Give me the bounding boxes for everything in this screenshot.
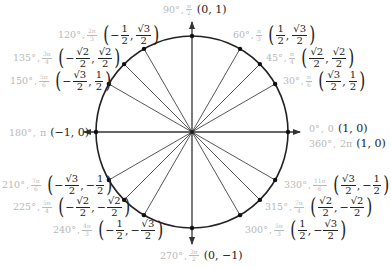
label-150: 150°, 5π6 (−√32,12) <box>10 70 113 92</box>
den: 2 <box>374 186 380 197</box>
num: √3 <box>65 174 80 186</box>
den: 2 <box>350 82 356 93</box>
degrees: 30° <box>283 76 300 86</box>
label-300: 300°, 5π3 (12,−√32) <box>245 219 348 241</box>
x: 1 <box>342 123 349 134</box>
label-60: 60°, π3 (12,√32) <box>233 24 317 46</box>
coord-180: (−1, 0) <box>50 127 89 138</box>
y-frac: √32 <box>323 219 338 241</box>
y-sign: − <box>86 180 95 191</box>
coord-240: (−12,−√32) <box>97 219 165 241</box>
coord-210: (−√32,−12) <box>46 174 114 196</box>
den: 2 <box>77 82 83 93</box>
den: 4 <box>45 208 49 214</box>
radian-fraction: 7π4 <box>294 200 304 214</box>
point-60 <box>238 47 242 51</box>
x-frac: √22 <box>309 47 324 69</box>
den: 2 <box>187 10 191 16</box>
den: 2 <box>141 36 147 47</box>
angle-90: 90°, π2 <box>163 3 193 17</box>
num: √2 <box>332 47 347 59</box>
num: √2 <box>318 196 333 208</box>
label-270: 270°, 3π2 (0, −1) <box>160 249 243 263</box>
num: √3 <box>323 219 338 231</box>
y-sign: − <box>313 225 322 236</box>
num: 1 <box>349 70 357 82</box>
radius-line-135 <box>124 64 192 132</box>
degrees: 315° <box>265 202 288 212</box>
radian-fraction: 3π4 <box>42 51 52 65</box>
x-sign: − <box>62 76 71 87</box>
y-frac: 12 <box>373 174 381 196</box>
den: 2 <box>145 231 151 242</box>
den: 2 <box>277 36 283 47</box>
y-frac: 12 <box>96 174 104 196</box>
label-330: 330°, 11π6 (√32,−12) <box>284 174 391 196</box>
num: √3 <box>292 24 307 36</box>
label-210: 210°, 7π6 (−√32,−12) <box>2 174 114 196</box>
point-315 <box>258 198 262 202</box>
num: √2 <box>309 47 324 59</box>
num: √2 <box>107 196 122 208</box>
angle-210: 210°, 7π6 <box>2 178 42 192</box>
y-frac: √32 <box>141 219 156 241</box>
den: 2 <box>345 186 351 197</box>
point-90 <box>190 34 194 38</box>
degrees: 330° <box>284 180 307 190</box>
radians: 2π <box>340 139 352 149</box>
den: 6 <box>42 82 46 88</box>
den: 4 <box>297 208 301 214</box>
den: 2 <box>80 59 86 70</box>
label-240: 240°, 4π3 (−12,−√32) <box>53 219 165 241</box>
angle-30: 30°, π6 <box>283 74 313 88</box>
label-0: 0°, 0 (1, 0) <box>309 123 367 134</box>
label-360: 360°, 2π (1, 0) <box>309 138 386 149</box>
x: 0 <box>208 250 215 261</box>
x-frac: 12 <box>276 24 284 46</box>
den: 2 <box>354 208 360 219</box>
radius-line-30 <box>192 84 275 132</box>
y-sign: − <box>130 225 139 236</box>
x-frac: √32 <box>341 174 356 196</box>
num: √3 <box>73 70 88 82</box>
angle-180: 180°, π <box>9 128 46 138</box>
den: 6 <box>307 82 311 88</box>
radian-fraction: π4 <box>289 51 295 65</box>
x-frac: √22 <box>76 196 91 218</box>
radius-line-60 <box>192 49 240 132</box>
y-frac: 12 <box>95 70 103 92</box>
degrees: 120° <box>58 30 81 40</box>
den: 2 <box>122 36 128 47</box>
x-frac: 12 <box>298 219 306 241</box>
coord-315: (√22,−√22) <box>309 196 374 218</box>
den: 2 <box>111 208 117 219</box>
point-330 <box>273 178 277 182</box>
den: 4 <box>45 59 49 65</box>
den: 2 <box>96 82 102 93</box>
num: √3 <box>136 24 151 36</box>
coord-135: (−√22,√22) <box>57 47 122 69</box>
y-frac: √22 <box>107 196 122 218</box>
y-frac: √22 <box>98 47 113 69</box>
den: 3 <box>277 231 281 237</box>
coord-90: (0, 1) <box>197 4 227 15</box>
point-180 <box>94 130 98 134</box>
x-frac: √32 <box>326 70 341 92</box>
coord-30: (√32,12) <box>317 70 367 92</box>
degrees: 45° <box>266 53 283 63</box>
radian-fraction: 2π3 <box>87 28 97 42</box>
radius-line-210 <box>109 132 192 180</box>
point-300 <box>238 213 242 217</box>
radians: π <box>40 128 46 138</box>
label-120: 120°, 2π3 (−12,√32) <box>58 24 161 46</box>
y: 0 <box>356 123 363 134</box>
x-frac: √32 <box>65 174 80 196</box>
x-frac: 12 <box>121 24 129 46</box>
point-270 <box>190 226 194 230</box>
num: √2 <box>350 196 365 208</box>
x-sign: − <box>65 53 74 64</box>
x-frac: √32 <box>73 70 88 92</box>
degrees: 90° <box>163 5 180 15</box>
label-135: 135°, 3π4 (−√22,√22) <box>13 47 122 69</box>
den: 2 <box>322 208 328 219</box>
